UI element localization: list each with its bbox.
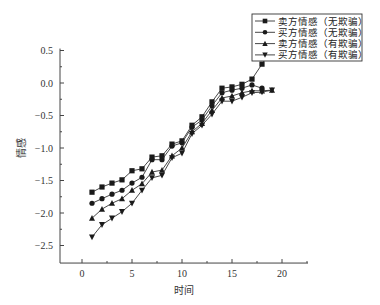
triangle-up-marker — [109, 200, 115, 206]
circle-marker — [109, 192, 114, 197]
circle-marker — [119, 188, 124, 193]
legend-label: 卖方情感（无欺骗） — [278, 16, 368, 27]
series-square — [89, 49, 272, 195]
y-tick-label: −0.5 — [35, 110, 53, 121]
square-marker — [259, 62, 264, 67]
circle-marker — [159, 157, 164, 162]
circle-marker — [139, 175, 144, 180]
circle-marker — [229, 88, 234, 93]
triangle-down-marker — [239, 95, 245, 101]
y-tick-label: −1.5 — [35, 175, 53, 186]
line-chart: 0.50.0−0.5−1.0−1.5−2.0−2.505101520时间情感 卖… — [0, 0, 380, 305]
legend: 卖方情感（无欺骗）买方情感（无欺骗）卖方情感（有欺骗）买方情感（有欺骗） — [252, 14, 368, 61]
circle-marker — [249, 82, 254, 87]
circle-marker — [99, 196, 104, 201]
triangle-up-marker — [129, 187, 135, 193]
y-tick-label: −1.0 — [35, 143, 53, 154]
x-tick-label: 10 — [177, 268, 187, 279]
y-tick-label: −2.5 — [35, 240, 53, 251]
circle-marker — [129, 181, 134, 186]
series-line — [92, 49, 272, 192]
triangle-down-marker — [119, 209, 125, 215]
square-marker — [139, 166, 144, 171]
square-marker — [119, 177, 124, 182]
x-tick-label: 5 — [130, 268, 135, 279]
square-marker — [89, 190, 94, 195]
x-tick-label: 15 — [227, 268, 237, 279]
square-marker — [219, 86, 224, 91]
x-axis-title: 时间 — [174, 284, 194, 296]
circle-marker — [219, 90, 224, 95]
circle-marker — [149, 157, 154, 162]
square-marker — [109, 181, 114, 186]
series-triangle-down — [89, 88, 275, 241]
x-tick-label: 0 — [80, 268, 85, 279]
y-tick-label: 0.0 — [41, 78, 54, 89]
triangle-down-marker — [109, 216, 115, 222]
square-marker — [263, 19, 268, 24]
triangle-down-marker — [89, 234, 95, 240]
triangle-down-marker — [179, 151, 185, 157]
legend-label: 买方情感（无欺骗） — [278, 27, 368, 38]
circle-marker — [169, 143, 174, 148]
square-marker — [129, 168, 134, 173]
x-tick-label: 20 — [277, 268, 287, 279]
square-marker — [99, 184, 104, 189]
series-circle — [89, 82, 264, 205]
series-line — [92, 90, 272, 237]
y-tick-label: 0.5 — [41, 45, 54, 56]
y-tick-label: −2.0 — [35, 208, 53, 219]
triangle-up-marker — [99, 206, 105, 212]
data-series — [89, 49, 275, 240]
legend-label: 买方情感（有欺骗） — [278, 49, 368, 60]
circle-marker — [263, 30, 268, 35]
legend-label: 卖方情感（有欺骗） — [278, 38, 368, 49]
circle-marker — [89, 201, 94, 206]
y-axis-title: 情感 — [15, 138, 27, 158]
square-marker — [249, 77, 254, 82]
series-line — [92, 85, 262, 203]
